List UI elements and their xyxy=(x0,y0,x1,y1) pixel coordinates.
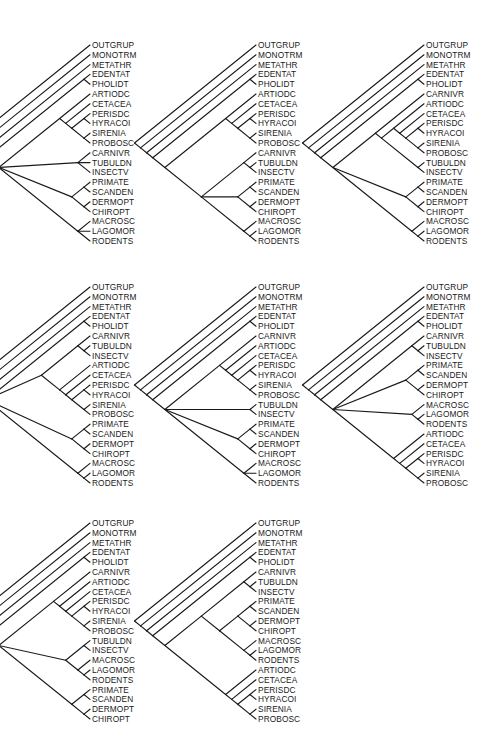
taxon-label: PROBOSC xyxy=(92,626,134,636)
branch-line xyxy=(394,434,424,459)
branch-line xyxy=(0,523,90,621)
taxon-label: METATHR xyxy=(426,302,466,312)
branch-line xyxy=(250,709,256,714)
branch-line xyxy=(418,128,424,133)
branch-line xyxy=(244,231,250,236)
branch-line xyxy=(84,641,90,646)
branch-line xyxy=(250,119,256,124)
taxon-label: CARNIVR xyxy=(92,567,130,577)
taxon-label: HYRACOI xyxy=(258,118,297,128)
taxon-label: TUBULDN xyxy=(258,577,298,587)
branch-line xyxy=(250,606,256,611)
branch-line xyxy=(238,616,250,626)
branch-line xyxy=(418,207,424,212)
taxon-label: LAGOMOR xyxy=(258,468,301,478)
taxon-label: RODENTS xyxy=(258,236,299,246)
taxon-label: PHOLIDT xyxy=(258,321,295,331)
taxon-label: CHIROPT xyxy=(258,449,296,459)
branch-line xyxy=(60,390,66,395)
branch-line xyxy=(418,321,424,326)
taxon-label: RODENTS xyxy=(92,675,133,685)
branch-line xyxy=(250,316,256,321)
taxon-label: TUBULDN xyxy=(92,636,132,646)
taxon-label: ARTIODC xyxy=(92,360,130,370)
branch-line xyxy=(418,365,424,370)
taxon-label: MONOTRM xyxy=(426,292,470,302)
branch-line xyxy=(418,370,424,375)
branch-line xyxy=(250,321,256,326)
branch-line xyxy=(66,660,78,670)
taxon-label: LAGOMOR xyxy=(258,645,301,655)
taxon-label: EDENTAT xyxy=(426,311,464,321)
branch-line xyxy=(226,94,256,119)
taxon-label: DERMOPT xyxy=(258,439,300,449)
taxon-label: MACROSC xyxy=(258,636,301,646)
taxon-label: RODENTS xyxy=(426,236,467,246)
taxon-label: HYRACOI xyxy=(426,458,465,468)
taxon-label: CETACEA xyxy=(92,587,131,597)
branch-line xyxy=(84,675,90,680)
taxon-label: DERMOPT xyxy=(426,380,468,390)
branch-line xyxy=(375,133,381,138)
branch-line xyxy=(418,419,424,424)
taxon-label: SIRENIA xyxy=(258,128,292,138)
branch-line xyxy=(226,695,232,700)
branch-line xyxy=(244,221,256,231)
taxon-label: MONOTRM xyxy=(258,50,302,60)
branch-line xyxy=(226,670,256,695)
taxon-label: HYRACOI xyxy=(426,128,465,138)
taxon-label: OUTGRUP xyxy=(92,518,134,528)
taxon-label: METATHR xyxy=(92,538,132,548)
branch-line xyxy=(0,307,90,395)
branch-line xyxy=(78,231,90,241)
taxon-label: PROBOSC xyxy=(258,714,300,724)
taxon-label: MACROSC xyxy=(426,400,469,410)
taxon-label: INSECTV xyxy=(92,645,129,655)
branch-line xyxy=(250,424,256,429)
taxon-label: PERISDC xyxy=(258,109,296,119)
taxon-label: SCANDEN xyxy=(92,694,133,704)
branch-line xyxy=(394,104,424,129)
branch-line xyxy=(418,414,424,419)
branch-line xyxy=(60,119,66,124)
taxon-label: LAGOMOR xyxy=(258,226,301,236)
branch-line xyxy=(406,459,418,469)
taxon-label: CHIROPT xyxy=(92,207,130,217)
taxon-label: SCANDEN xyxy=(258,429,299,439)
branch-line xyxy=(250,587,256,592)
taxon-label: CHIROPT xyxy=(258,626,296,636)
branch-line xyxy=(226,119,232,124)
taxon-label: MONOTRM xyxy=(258,528,302,538)
branch-line xyxy=(84,74,90,79)
branch-line xyxy=(0,646,66,661)
taxon-label: TUBULDN xyxy=(92,341,132,351)
branch-line xyxy=(84,119,90,124)
branch-line xyxy=(72,695,84,705)
branch-line xyxy=(418,163,424,168)
branch-line xyxy=(418,187,424,192)
taxon-label: MONOTRM xyxy=(92,528,136,538)
branch-line xyxy=(84,670,90,675)
taxon-label: RODENTS xyxy=(92,236,133,246)
cladogram-6: OUTGRUPMONOTRMMETATHREDENTATPHOLIDTCARNI… xyxy=(364,283,496,513)
taxon-label: RODENTS xyxy=(258,655,299,665)
taxon-label: CHIROPT xyxy=(426,207,464,217)
taxon-label: OUTGRUP xyxy=(92,40,134,50)
branch-line xyxy=(250,74,256,79)
branch-line xyxy=(226,346,256,371)
taxon-label: METATHR xyxy=(258,60,298,70)
branch-line xyxy=(250,582,256,587)
branch-line xyxy=(412,231,418,236)
taxon-label: MACROSC xyxy=(92,458,135,468)
branch-line xyxy=(412,221,424,231)
branch-line xyxy=(84,478,90,483)
branch-line xyxy=(78,153,90,163)
branch-line xyxy=(66,395,72,400)
taxon-label: PRIMATE xyxy=(258,596,295,606)
branch-line xyxy=(250,655,256,660)
taxon-label: PHOLIDT xyxy=(426,79,463,89)
branch-line xyxy=(220,631,244,651)
taxon-label: MACROSC xyxy=(258,458,301,468)
branch-line xyxy=(250,621,256,626)
taxon-label: CARNIVR xyxy=(258,148,296,158)
